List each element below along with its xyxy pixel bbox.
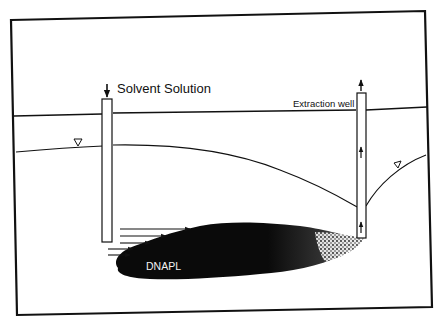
- dnapl-label: DNAPL: [146, 260, 181, 272]
- solvent-solution-label: Solvent Solution: [117, 81, 211, 96]
- dnapl-remediation-diagram: Solvent Solution Extraction well DNAPL: [0, 0, 443, 325]
- extraction-well-label: Extraction well: [293, 98, 354, 109]
- injection-well: [102, 99, 112, 242]
- extraction-well: [357, 93, 366, 238]
- water-table-marker-icon: [394, 161, 401, 168]
- water-table-marker-icon: [74, 139, 82, 146]
